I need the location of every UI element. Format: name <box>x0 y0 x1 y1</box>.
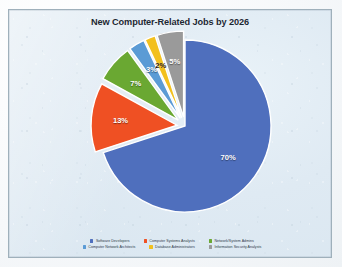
legend-row: Computer Network Architects Database Adm… <box>83 245 262 249</box>
legend-item: Database Administrators <box>149 245 194 249</box>
legend-swatch-icon <box>144 239 147 242</box>
pie-svg <box>9 30 331 222</box>
chart-frame: New Computer-Related Jobs by 2026 70%13%… <box>8 9 332 258</box>
screenshot-root: New Computer-Related Jobs by 2026 70%13%… <box>0 0 342 267</box>
legend-item-label: Software Developers <box>96 239 130 243</box>
legend-item-label: Computer Systems Analysts <box>149 239 194 243</box>
legend-swatch-icon <box>209 245 212 248</box>
legend-item-label: Network/System Admins <box>214 239 253 243</box>
legend-item-label: Database Administrators <box>155 245 195 249</box>
legend-item: Network/System Admins <box>209 239 254 243</box>
legend-item: Computer Systems Analysts <box>144 239 195 243</box>
legend-item-label: Computer Network Architects <box>88 245 135 249</box>
legend-item: Software Developers <box>90 239 129 243</box>
legend-item: Computer Network Architects <box>83 245 136 249</box>
legend-item: Information Security Analysts <box>209 245 262 249</box>
legend-swatch-icon <box>209 239 212 242</box>
chart-title: New Computer-Related Jobs by 2026 <box>9 17 331 27</box>
legend-swatch-icon <box>83 245 86 248</box>
legend-row: Software Developers Computer Systems Ana… <box>90 239 254 243</box>
legend-item-label: Information Security Analysts <box>214 245 261 249</box>
pie-chart: 70%13%7%3%2%5% <box>9 30 331 222</box>
chart-legend: Software Developers Computer Systems Ana… <box>23 239 321 249</box>
legend-swatch-icon <box>149 245 152 248</box>
legend-swatch-icon <box>90 239 93 242</box>
